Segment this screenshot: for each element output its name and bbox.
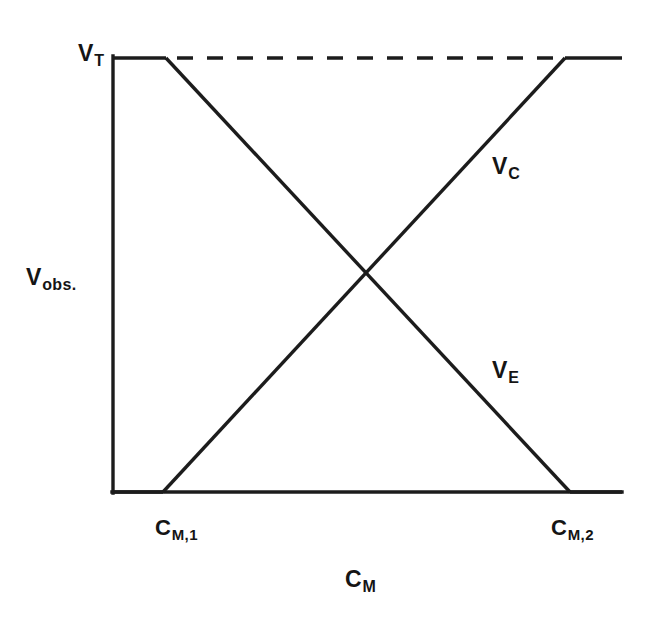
axis-label-x-base: C bbox=[345, 566, 362, 592]
x-tick-label-right: CM,2 bbox=[551, 517, 593, 539]
axis-label-x-sub: M bbox=[362, 578, 376, 595]
axis-label-vt: VT bbox=[78, 42, 104, 65]
axis-label-x: CM bbox=[345, 568, 376, 591]
curve-label-vc-sub: C bbox=[508, 165, 520, 182]
figure-canvas: VT Vobs. VC VE CM,1 CM,2 CM bbox=[0, 0, 655, 623]
axis-label-vt-base: V bbox=[78, 40, 94, 66]
ve-descending-line bbox=[166, 58, 570, 492]
curve-label-vc: VC bbox=[492, 155, 520, 178]
curve-label-ve-sub: E bbox=[508, 369, 519, 386]
vc-ascending-line bbox=[163, 58, 565, 492]
x-tick-label-right-sub: M,2 bbox=[568, 526, 594, 543]
axis-label-vt-sub: T bbox=[94, 52, 104, 69]
curve-label-ve-base: V bbox=[492, 357, 508, 383]
curve-label-vc-base: V bbox=[492, 153, 508, 179]
x-tick-label-left: CM,1 bbox=[155, 517, 197, 539]
x-tick-label-left-base: C bbox=[155, 515, 171, 540]
x-tick-label-right-base: C bbox=[551, 515, 567, 540]
axis-label-y-sub: obs. bbox=[42, 276, 77, 293]
axis-label-y: Vobs. bbox=[26, 266, 76, 289]
curve-label-ve: VE bbox=[492, 359, 519, 382]
x-tick-label-left-sub: M,1 bbox=[172, 526, 198, 543]
axis-label-y-base: V bbox=[26, 264, 42, 290]
